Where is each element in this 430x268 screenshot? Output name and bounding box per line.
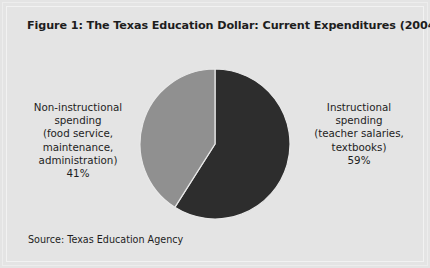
pie-label-line: textbooks)	[296, 141, 422, 154]
figure-panel: Figure 1: The Texas Education Dollar: Cu…	[0, 0, 430, 268]
pie-label-line: administration)	[16, 154, 140, 167]
pie-chart-svg	[139, 68, 291, 220]
pie-label-non-instructional: Non-instructional spending (food service…	[16, 101, 140, 180]
pie-chart	[139, 68, 291, 220]
pie-label-line: maintenance,	[16, 141, 140, 154]
pie-label-percentage: 41%	[16, 167, 140, 180]
pie-label-line: (food service,	[16, 127, 140, 140]
pie-label-line: spending	[16, 114, 140, 127]
pie-label-percentage: 59%	[296, 154, 422, 167]
pie-label-line: spending	[296, 114, 422, 127]
pie-label-line: Non-instructional	[16, 101, 140, 114]
source-note: Source: Texas Education Agency	[28, 234, 183, 245]
pie-label-line: Instructional	[296, 101, 422, 114]
chart-title: Figure 1: The Texas Education Dollar: Cu…	[27, 19, 407, 32]
pie-label-instructional: Instructional spending (teacher salaries…	[296, 101, 422, 167]
pie-label-line: (teacher salaries,	[296, 127, 422, 140]
